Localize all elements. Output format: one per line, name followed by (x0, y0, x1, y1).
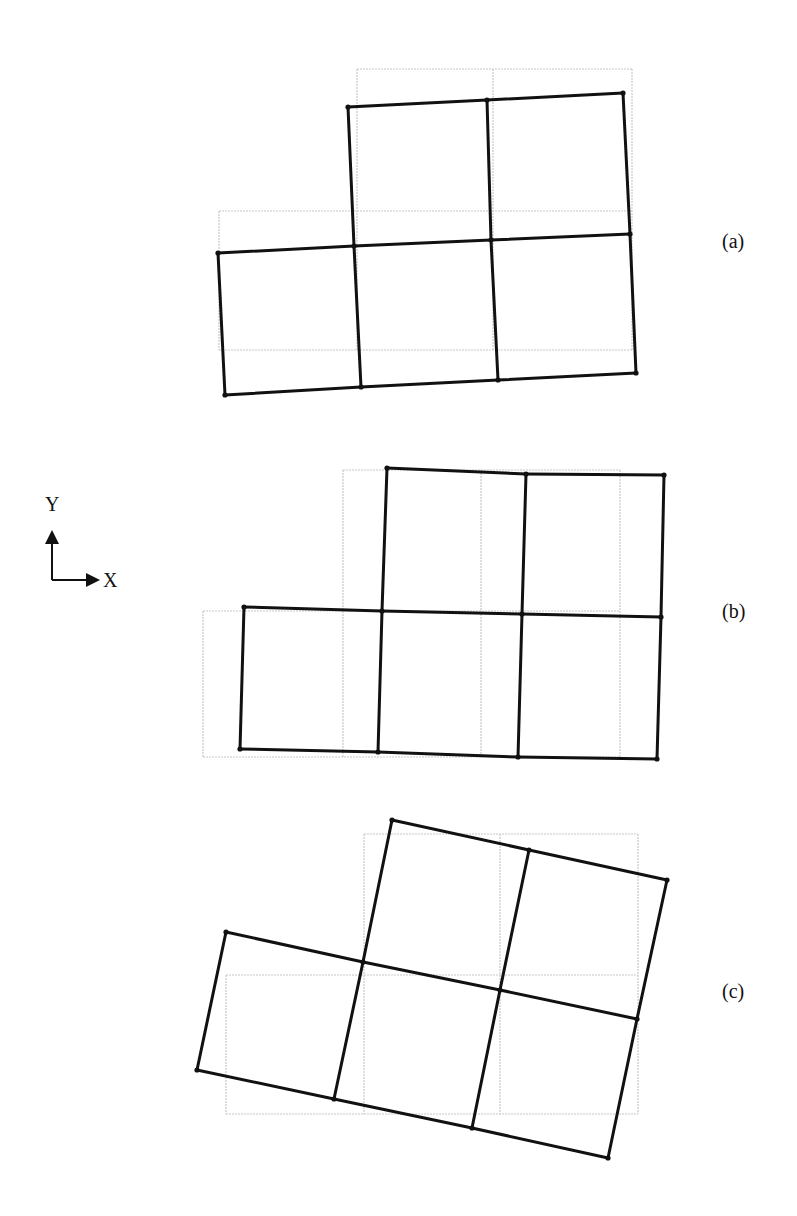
mesh-node (526, 847, 531, 852)
mesh-edge (226, 932, 363, 962)
mesh-edge (382, 468, 387, 611)
mesh-edge (334, 962, 363, 1099)
mesh-node (515, 754, 520, 759)
mesh-edge (522, 474, 526, 614)
axes-indicator: Y X (45, 493, 118, 591)
mesh-edge (487, 93, 623, 100)
mesh-node (495, 377, 500, 382)
mesh-node (194, 1067, 199, 1072)
panel-b: (b) (203, 465, 745, 761)
mesh-edge (487, 100, 491, 240)
mesh-node (488, 237, 493, 242)
mesh-edge (526, 474, 664, 475)
mesh-edge (491, 240, 498, 380)
mesh-edge (472, 1128, 608, 1158)
mesh-node (331, 1096, 336, 1101)
mesh-edge (225, 387, 361, 395)
mesh-edge (608, 1019, 637, 1158)
mesh-node (345, 104, 350, 109)
mesh-edge (630, 234, 636, 373)
mesh-node (237, 746, 242, 751)
mesh-node (658, 614, 663, 619)
mesh-edge (491, 234, 630, 240)
mesh-node (389, 817, 394, 822)
mesh-edge (378, 611, 382, 752)
panel-label-b: (b) (722, 600, 745, 623)
mesh-edge (518, 614, 522, 757)
mesh-node (633, 370, 638, 375)
mesh-node (654, 756, 659, 761)
mesh-node (523, 471, 528, 476)
mesh-edge (361, 380, 498, 387)
x-axis-label: X (103, 569, 118, 591)
mesh-edge (197, 1070, 334, 1099)
mesh-node (215, 250, 220, 255)
mesh-edge (348, 100, 487, 107)
mesh-edge (392, 820, 529, 850)
mesh-edge (218, 246, 354, 253)
panel-label-a: (a) (722, 230, 744, 253)
mesh-node (358, 384, 363, 389)
mesh-node (634, 1016, 639, 1021)
mesh-node (484, 97, 489, 102)
mesh-edge (348, 107, 354, 246)
reference-grid (226, 834, 638, 1114)
mesh-edge (240, 607, 244, 749)
mesh-edge (498, 373, 636, 380)
y-axis-label: Y (45, 493, 59, 515)
mesh-edge (657, 617, 661, 759)
mesh-node (375, 749, 380, 754)
mesh-edge (500, 990, 637, 1019)
mesh-edge (661, 475, 664, 617)
mesh-edge (363, 962, 500, 990)
panel-c: (c) (194, 817, 744, 1160)
mesh-node (497, 987, 502, 992)
mesh-node (222, 392, 227, 397)
mesh-node (360, 959, 365, 964)
panel-a: (a) (215, 69, 744, 398)
mesh-edge (354, 240, 491, 246)
mesh-edge (378, 752, 518, 757)
mesh-node (469, 1125, 474, 1130)
reference-grid (219, 69, 632, 350)
deformed-mesh (237, 465, 666, 761)
mesh-edge (522, 614, 661, 617)
mesh-edge (363, 820, 392, 962)
mesh-node (519, 611, 524, 616)
figure-canvas: (a)(b)(c) Y X (0, 0, 797, 1216)
mesh-edge (197, 932, 226, 1070)
mesh-edge (240, 749, 378, 752)
mesh-node (223, 929, 228, 934)
mesh-node (351, 243, 356, 248)
mesh-node (661, 472, 666, 477)
mesh-edge (387, 468, 526, 474)
mesh-edge (500, 850, 529, 990)
panel-label-c: (c) (722, 980, 744, 1003)
mesh-edge (623, 93, 630, 234)
mesh-edge (637, 880, 667, 1019)
mesh-node (241, 604, 246, 609)
mesh-node (664, 877, 669, 882)
mesh-node (627, 231, 632, 236)
mesh-node (605, 1155, 610, 1160)
deformed-mesh (194, 817, 669, 1160)
mesh-node (379, 608, 384, 613)
mesh-node (620, 90, 625, 95)
panels-group: (a)(b)(c) (194, 69, 745, 1161)
mesh-edge (518, 757, 657, 759)
mesh-node (384, 465, 389, 470)
deformed-mesh (215, 90, 638, 397)
mesh-edge (472, 990, 500, 1128)
mesh-edge (529, 850, 667, 880)
